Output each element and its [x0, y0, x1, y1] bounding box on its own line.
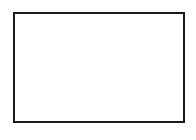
piano-keyboard-figure — [0, 0, 196, 140]
piano-keyboard-diagram — [0, 0, 196, 140]
keyboard-frame-overlay — [14, 13, 184, 122]
